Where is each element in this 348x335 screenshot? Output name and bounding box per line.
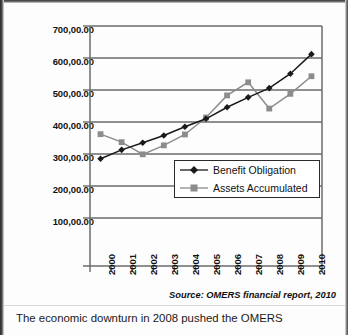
- data-point-marker: [224, 104, 231, 111]
- x-axis-tick-label: 2005: [211, 254, 222, 275]
- series-line: [101, 54, 312, 159]
- data-point-marker: [119, 139, 125, 145]
- legend-item-assets-accumulated: Assets Accumulated: [175, 179, 319, 197]
- figure-page: 100,00.00200,00.00300,00.00400,00.00500,…: [0, 0, 348, 335]
- data-point-marker: [97, 156, 104, 163]
- square-marker-icon: [178, 181, 210, 195]
- legend-label-assets-accumulated: Assets Accumulated: [213, 182, 308, 194]
- chart-figure: 100,00.00200,00.00300,00.00400,00.00500,…: [6, 4, 344, 304]
- diamond-marker-icon: [178, 163, 210, 177]
- data-point-marker: [182, 124, 189, 131]
- figure-caption: The economic downturn in 2008 pushed the…: [16, 312, 283, 324]
- x-axis-tick-label: 2001: [127, 254, 138, 275]
- data-point-marker: [245, 79, 251, 85]
- x-axis-tick-label: 2002: [148, 254, 159, 275]
- data-point-marker: [287, 91, 293, 97]
- chart-legend: Benefit Obligation Assets Accumulated: [174, 160, 320, 198]
- x-axis-tick-label: 2006: [232, 254, 243, 275]
- x-axis-tick-label: 2010: [316, 254, 327, 275]
- data-point-marker: [245, 94, 252, 101]
- data-point-marker: [98, 131, 104, 137]
- x-axis-tick-label: 2007: [253, 254, 264, 275]
- data-point-marker: [161, 132, 168, 139]
- data-point-marker: [139, 140, 146, 147]
- data-point-marker: [161, 142, 167, 148]
- scan-edge-top: [0, 0, 348, 3]
- chart-series-layer: [97, 51, 315, 162]
- chart-source-note: Source: OMERS financial report, 2010: [169, 290, 336, 300]
- caption-divider: [4, 305, 345, 306]
- data-point-marker: [118, 147, 125, 154]
- data-point-marker: [182, 132, 188, 138]
- legend-item-benefit-obligation: Benefit Obligation: [175, 161, 319, 179]
- x-axis-tick-label: 2009: [295, 254, 306, 275]
- x-axis-tick-label: 2008: [274, 254, 285, 275]
- data-point-marker: [266, 106, 272, 112]
- x-axis-tick-label: 2000: [106, 254, 117, 275]
- legend-label-benefit-obligation: Benefit Obligation: [213, 164, 296, 176]
- chart-x-ticks: [90, 266, 322, 272]
- data-point-marker: [224, 93, 230, 99]
- data-point-marker: [140, 151, 146, 157]
- data-point-marker: [309, 73, 315, 79]
- chart-axes: [83, 26, 322, 266]
- x-axis-tick-label: 2004: [190, 254, 201, 275]
- x-axis-tick-label: 2003: [169, 254, 180, 275]
- scan-edge-left: [0, 0, 4, 335]
